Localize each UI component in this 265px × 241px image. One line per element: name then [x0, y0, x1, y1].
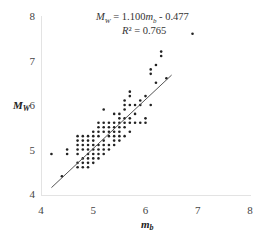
data-point	[87, 139, 90, 142]
data-point	[134, 113, 137, 116]
data-point	[102, 148, 105, 151]
x-tick-label: 6	[143, 204, 149, 216]
data-point	[113, 144, 116, 147]
data-point	[129, 90, 132, 93]
data-point	[97, 157, 100, 160]
data-point	[92, 130, 95, 133]
data-point	[87, 148, 90, 151]
data-point	[129, 95, 132, 98]
axes	[41, 16, 251, 196]
data-point	[123, 135, 126, 138]
data-point	[92, 162, 95, 165]
data-point	[97, 122, 100, 125]
data-point	[123, 99, 126, 102]
data-point	[113, 122, 116, 125]
data-point	[102, 144, 105, 147]
data-point	[102, 108, 105, 111]
data-point	[134, 104, 137, 107]
data-point	[123, 108, 126, 111]
y-tick-labels: 45678	[30, 10, 36, 200]
data-points	[50, 33, 194, 178]
data-point	[92, 144, 95, 147]
data-point	[118, 139, 121, 142]
data-point	[97, 130, 100, 133]
x-tick-label: 7	[195, 204, 201, 216]
data-point	[123, 126, 126, 129]
data-point	[155, 81, 158, 84]
data-point	[108, 122, 111, 125]
data-point	[139, 99, 142, 102]
data-point	[92, 153, 95, 156]
data-point	[92, 135, 95, 138]
data-point	[139, 122, 142, 125]
data-point	[76, 148, 79, 151]
data-point	[118, 130, 121, 133]
data-point	[144, 95, 147, 98]
data-point	[129, 104, 132, 107]
data-point	[87, 144, 90, 147]
data-point	[92, 157, 95, 160]
data-point	[118, 113, 121, 116]
data-point	[82, 144, 85, 147]
data-point	[113, 130, 116, 133]
data-point	[118, 126, 121, 129]
regression-equation: MW = 1.100mb - 0.477	[96, 11, 189, 25]
data-point	[76, 144, 79, 147]
data-point	[149, 68, 152, 71]
y-tick-label: 6	[30, 99, 36, 111]
data-point	[113, 135, 116, 138]
data-point	[113, 113, 116, 116]
scatter-chart: 45678 45678 MW mb	[0, 0, 265, 241]
data-point	[160, 55, 163, 58]
y-axis-label: MW	[12, 99, 31, 113]
data-point	[66, 153, 69, 156]
data-point	[102, 122, 105, 125]
y-tick-label: 4	[30, 188, 36, 200]
data-point	[82, 139, 85, 142]
data-point	[97, 135, 100, 138]
data-point	[87, 135, 90, 138]
y-tick-label: 5	[30, 144, 36, 156]
data-point	[97, 126, 100, 129]
data-point	[76, 135, 79, 138]
data-point	[97, 148, 100, 151]
x-tick-label: 8	[247, 204, 253, 216]
x-tick-label: 5	[91, 204, 97, 216]
data-point	[118, 135, 121, 138]
data-point	[87, 166, 90, 169]
data-point	[102, 153, 105, 156]
data-point	[87, 162, 90, 165]
regression-line	[51, 75, 171, 188]
data-point	[82, 135, 85, 138]
data-point	[123, 104, 126, 107]
data-point	[76, 153, 79, 156]
data-point	[76, 166, 79, 169]
data-point	[108, 126, 111, 129]
y-tick-label: 8	[30, 10, 36, 22]
data-point	[134, 122, 137, 125]
data-point	[113, 139, 116, 142]
data-point	[82, 148, 85, 151]
r-squared: R² = 0.765	[122, 25, 166, 36]
data-point	[102, 130, 105, 133]
data-point	[92, 139, 95, 142]
data-point	[129, 130, 132, 133]
data-point	[129, 122, 132, 125]
data-point	[50, 153, 53, 156]
data-point	[82, 166, 85, 169]
data-point	[97, 153, 100, 156]
data-point	[160, 50, 163, 53]
data-point	[191, 33, 194, 36]
data-point	[129, 117, 132, 120]
data-point	[66, 148, 69, 151]
x-axis-label: mb	[141, 218, 154, 232]
data-point	[149, 73, 152, 76]
data-point	[123, 122, 126, 125]
data-point	[149, 104, 152, 107]
data-point	[108, 144, 111, 147]
data-point	[76, 139, 79, 142]
data-point	[87, 157, 90, 160]
data-point	[82, 162, 85, 165]
x-tick-label: 4	[38, 204, 44, 216]
x-tick-labels: 45678	[38, 204, 253, 216]
